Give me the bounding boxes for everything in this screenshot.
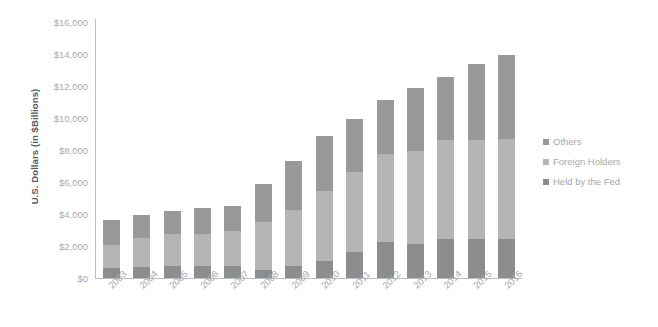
bar-segment (224, 231, 241, 266)
bar-segment (377, 100, 394, 154)
bar-segment (103, 220, 120, 246)
bar-stack (377, 100, 394, 278)
bar-segment (164, 234, 181, 266)
y-axis-tick-label: $2,000 (32, 241, 88, 252)
bar-segment (316, 191, 333, 261)
stacked-bar-chart: U.S. Dollars (in $Billions) $16,000$14,0… (0, 0, 658, 327)
bar-stack (407, 88, 424, 278)
bar-segment (103, 245, 120, 267)
x-axis-tick-labels: 2003200420052006200720082009201020112012… (96, 278, 522, 327)
plot-area (96, 10, 522, 278)
bar-segment (407, 151, 424, 244)
legend-label: Others (553, 136, 582, 147)
bar-segment (133, 215, 150, 238)
bar-segment (498, 139, 515, 239)
bar-stack (285, 161, 302, 278)
legend-label: Foreign Holders (553, 156, 621, 167)
bar-segment (194, 234, 211, 266)
y-axis-tick-labels: $16,000$14,000$12,000$10,000$8,000$6,000… (32, 0, 88, 327)
bar-segment (194, 208, 211, 234)
y-axis-tick-label: $0 (32, 273, 88, 284)
bar-segment (407, 88, 424, 151)
bar-segment (164, 211, 181, 235)
y-axis-tick-label: $12,000 (32, 81, 88, 92)
legend-swatch-icon (543, 179, 549, 185)
bar-segment (285, 161, 302, 210)
legend-label: Held by the Fed (553, 176, 620, 187)
bar-stack (468, 64, 485, 278)
y-axis-tick-label: $14,000 (32, 49, 88, 60)
bar-segment (468, 64, 485, 139)
y-axis-tick-label: $8,000 (32, 145, 88, 156)
y-axis-tick-label: $10,000 (32, 113, 88, 124)
bar-segment (498, 55, 515, 139)
bar-segment (377, 154, 394, 242)
bar-stack (194, 208, 211, 278)
bar-stack (164, 211, 181, 278)
bar-segment (346, 172, 363, 252)
y-axis-tick-label: $16,000 (32, 17, 88, 28)
bar-segment (346, 119, 363, 172)
bar-stack (498, 55, 515, 278)
bar-stack (133, 215, 150, 278)
bar-stack (346, 119, 363, 278)
bar-stack (255, 184, 272, 278)
legend-swatch-icon (543, 139, 549, 145)
bar-segment (133, 238, 150, 267)
bar-segment (316, 136, 333, 190)
y-axis-tick-label: $6,000 (32, 177, 88, 188)
bar-segment (437, 140, 454, 238)
bar-stack (316, 136, 333, 278)
legend-swatch-icon (543, 159, 549, 165)
legend-item[interactable]: Foreign Holders (543, 153, 655, 170)
bar-segment (285, 210, 302, 266)
bar-segment (437, 77, 454, 140)
bar-stack (103, 220, 120, 278)
chart-legend: OthersForeign HoldersHeld by the Fed (543, 133, 655, 193)
legend-item[interactable]: Held by the Fed (543, 173, 655, 190)
legend-item[interactable]: Others (543, 133, 655, 150)
bar-segment (468, 140, 485, 239)
bar-segment (224, 206, 241, 231)
bar-stack (437, 77, 454, 278)
bar-segment (255, 184, 272, 222)
bar-segment (255, 222, 272, 270)
y-axis-tick-label: $4,000 (32, 209, 88, 220)
bar-stack (224, 206, 241, 278)
